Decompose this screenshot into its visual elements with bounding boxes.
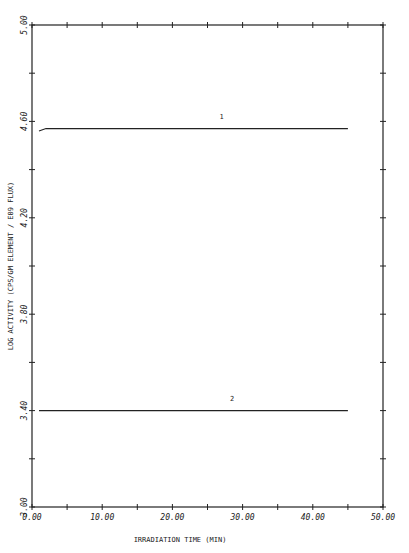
y-axis-ticks: 3.003.403.804.204.605.00 [20,15,386,517]
y-tick-label: 3.40 [20,401,29,421]
series-labels: 12 [219,113,234,403]
x-axis-title: IRRADIATION TIME (MIN) [134,536,227,544]
plot-border [32,25,383,507]
plot-frame [32,25,383,507]
y-axis-title: LOG ACTIVITY (CPS/GM ELEMENT / E09 FLUX) [7,182,15,351]
y-tick-label: 4.60 [20,112,29,131]
series-label-1: 1 [219,113,223,121]
x-tick-label: 20.00 [160,513,184,522]
series-label-2: 2 [230,395,234,403]
x-tick-label: 50.00 [371,513,395,522]
y-tick-label: 5.00 [20,15,29,34]
x-tick-label: 10.00 [90,513,114,522]
line-chart: 0.0010.0020.0030.0040.0050.00 3.003.403.… [0,0,409,553]
series-lines [39,129,348,411]
y-tick-label: 4.20 [20,208,29,227]
x-tick-label: 30.00 [230,513,255,522]
series-line-1 [39,129,348,131]
x-axis-ticks: 0.0010.0020.0030.0040.0050.00 [22,22,395,522]
y-tick-label: 3.80 [20,304,29,324]
y-tick-label: 3.00 [20,497,29,517]
x-tick-label: 40.00 [301,513,325,522]
